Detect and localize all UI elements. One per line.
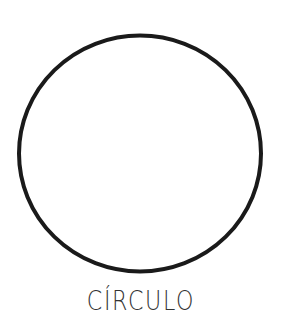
- shape-label: CÍRCULO: [25, 285, 256, 316]
- circle-shape: [0, 0, 282, 285]
